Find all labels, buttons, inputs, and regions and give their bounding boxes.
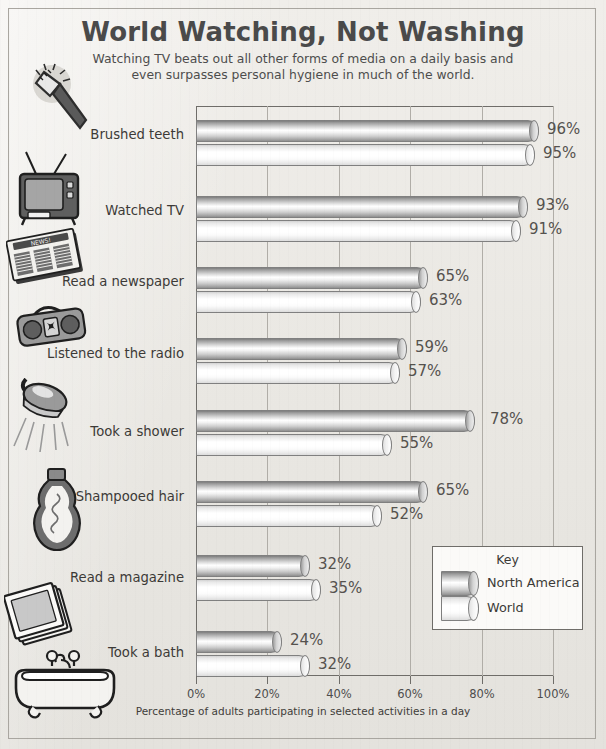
xtick-40 (339, 676, 340, 684)
value-label-world-read-a-newspaper: 63% (429, 291, 462, 309)
xtick-100 (553, 676, 554, 684)
bar-north-america-shampooed-hair (196, 481, 428, 503)
category-label-brushed-teeth: Brushed teeth (0, 127, 190, 142)
value-label-north-america-took-a-bath: 24% (290, 631, 323, 649)
category-label-watched-tv: Watched TV (0, 203, 190, 218)
bar-world-brushed-teeth (196, 144, 535, 166)
bar-north-america-took-a-bath (196, 631, 282, 653)
xtick-80 (482, 676, 483, 684)
xtick-label-80: 80% (452, 687, 512, 701)
xtick-0 (196, 676, 197, 684)
value-label-north-america-brushed-teeth: 96% (547, 120, 580, 138)
value-label-north-america-read-a-newspaper: 65% (436, 267, 469, 285)
bar-north-america-read-a-newspaper (196, 267, 428, 289)
bar-north-america-brushed-teeth (196, 120, 539, 142)
legend-label-world: World (487, 600, 524, 615)
category-label-read-a-magazine: Read a magazine (0, 570, 190, 585)
xtick-label-0: 0% (166, 687, 226, 701)
legend-title: Key (433, 552, 582, 567)
gridline-60 (410, 106, 411, 676)
chart-legend: Key North America World (432, 546, 583, 630)
xtick-label-100: 100% (523, 687, 583, 701)
value-label-world-shampooed-hair: 52% (390, 505, 423, 523)
bar-world-read-a-newspaper (196, 291, 421, 313)
plot-top-border (196, 106, 553, 107)
value-label-world-read-a-magazine: 35% (329, 579, 362, 597)
bar-north-america-watched-tv (196, 196, 528, 218)
xtick-20 (267, 676, 268, 684)
value-label-world-took-a-bath: 32% (318, 655, 351, 673)
bar-world-took-a-shower (196, 434, 392, 456)
xtick-label-40: 40% (309, 687, 369, 701)
xtick-label-20: 20% (237, 687, 297, 701)
category-label-listened-to-the-radio: Listened to the radio (0, 346, 190, 361)
bar-world-shampooed-hair (196, 505, 382, 527)
value-label-world-watched-tv: 91% (529, 220, 562, 238)
value-label-north-america-shampooed-hair: 65% (436, 481, 469, 499)
value-label-north-america-watched-tv: 93% (536, 196, 569, 214)
legend-swatch-world (441, 596, 479, 621)
bar-world-watched-tv (196, 220, 521, 242)
bar-north-america-read-a-magazine (196, 555, 310, 577)
value-label-north-america-listened-to-the-radio: 59% (415, 338, 448, 356)
category-label-shampooed-hair: Shampooed hair (0, 489, 190, 504)
xtick-60 (410, 676, 411, 684)
x-axis-caption: Percentage of adults participating in se… (0, 705, 606, 717)
value-label-world-listened-to-the-radio: 57% (408, 362, 441, 380)
value-label-world-brushed-teeth: 95% (543, 144, 576, 162)
value-label-world-took-a-shower: 55% (400, 434, 433, 452)
legend-swatch-north-america (441, 571, 479, 596)
infographic-poster: World Watching, Not Washing Watching TV … (0, 0, 606, 749)
bar-north-america-listened-to-the-radio (196, 338, 407, 360)
legend-label-north-america: North America (487, 575, 580, 590)
bar-world-listened-to-the-radio (196, 362, 400, 384)
value-label-north-america-read-a-magazine: 32% (318, 555, 351, 573)
category-label-took-a-bath: Took a bath (0, 645, 190, 660)
xtick-label-60: 60% (380, 687, 440, 701)
category-label-took-a-shower: Took a shower (0, 424, 190, 439)
category-label-read-a-newspaper: Read a newspaper (0, 274, 190, 289)
bar-world-read-a-magazine (196, 579, 321, 601)
bar-north-america-took-a-shower (196, 410, 475, 432)
value-label-north-america-took-a-shower: 78% (490, 410, 523, 428)
bar-world-took-a-bath (196, 655, 310, 677)
